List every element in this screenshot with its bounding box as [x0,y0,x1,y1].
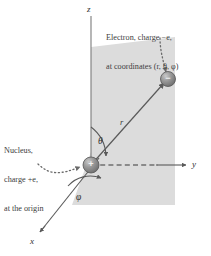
nucleus-sphere [83,157,99,173]
z-axis-label: z [87,4,91,15]
phi-label: φ [76,192,81,203]
y-axis-label: y [192,159,196,170]
electron-callout: Electron, charge −e, at coordinates (r, … [106,14,178,91]
nucleus-callout-line1: Nucleus, [4,146,44,156]
electron-callout-line1: Electron, charge −e, [106,33,178,43]
electron-callout-line2: at coordinates (r, θ, φ) [106,62,178,72]
theta-label: θ [98,136,103,147]
spherical-coordinates-diagram: + − Electron, charge −e, at coordinates … [0,0,211,256]
nucleus-callout-line2: charge +e, [4,175,44,185]
nucleus-leader-dotted [38,164,80,173]
nucleus-callout: Nucleus, charge +e, at the origin [4,127,44,233]
nucleus-callout-line3: at the origin [4,204,44,214]
x-axis-label: x [30,236,34,247]
radius-label: r [120,117,123,127]
